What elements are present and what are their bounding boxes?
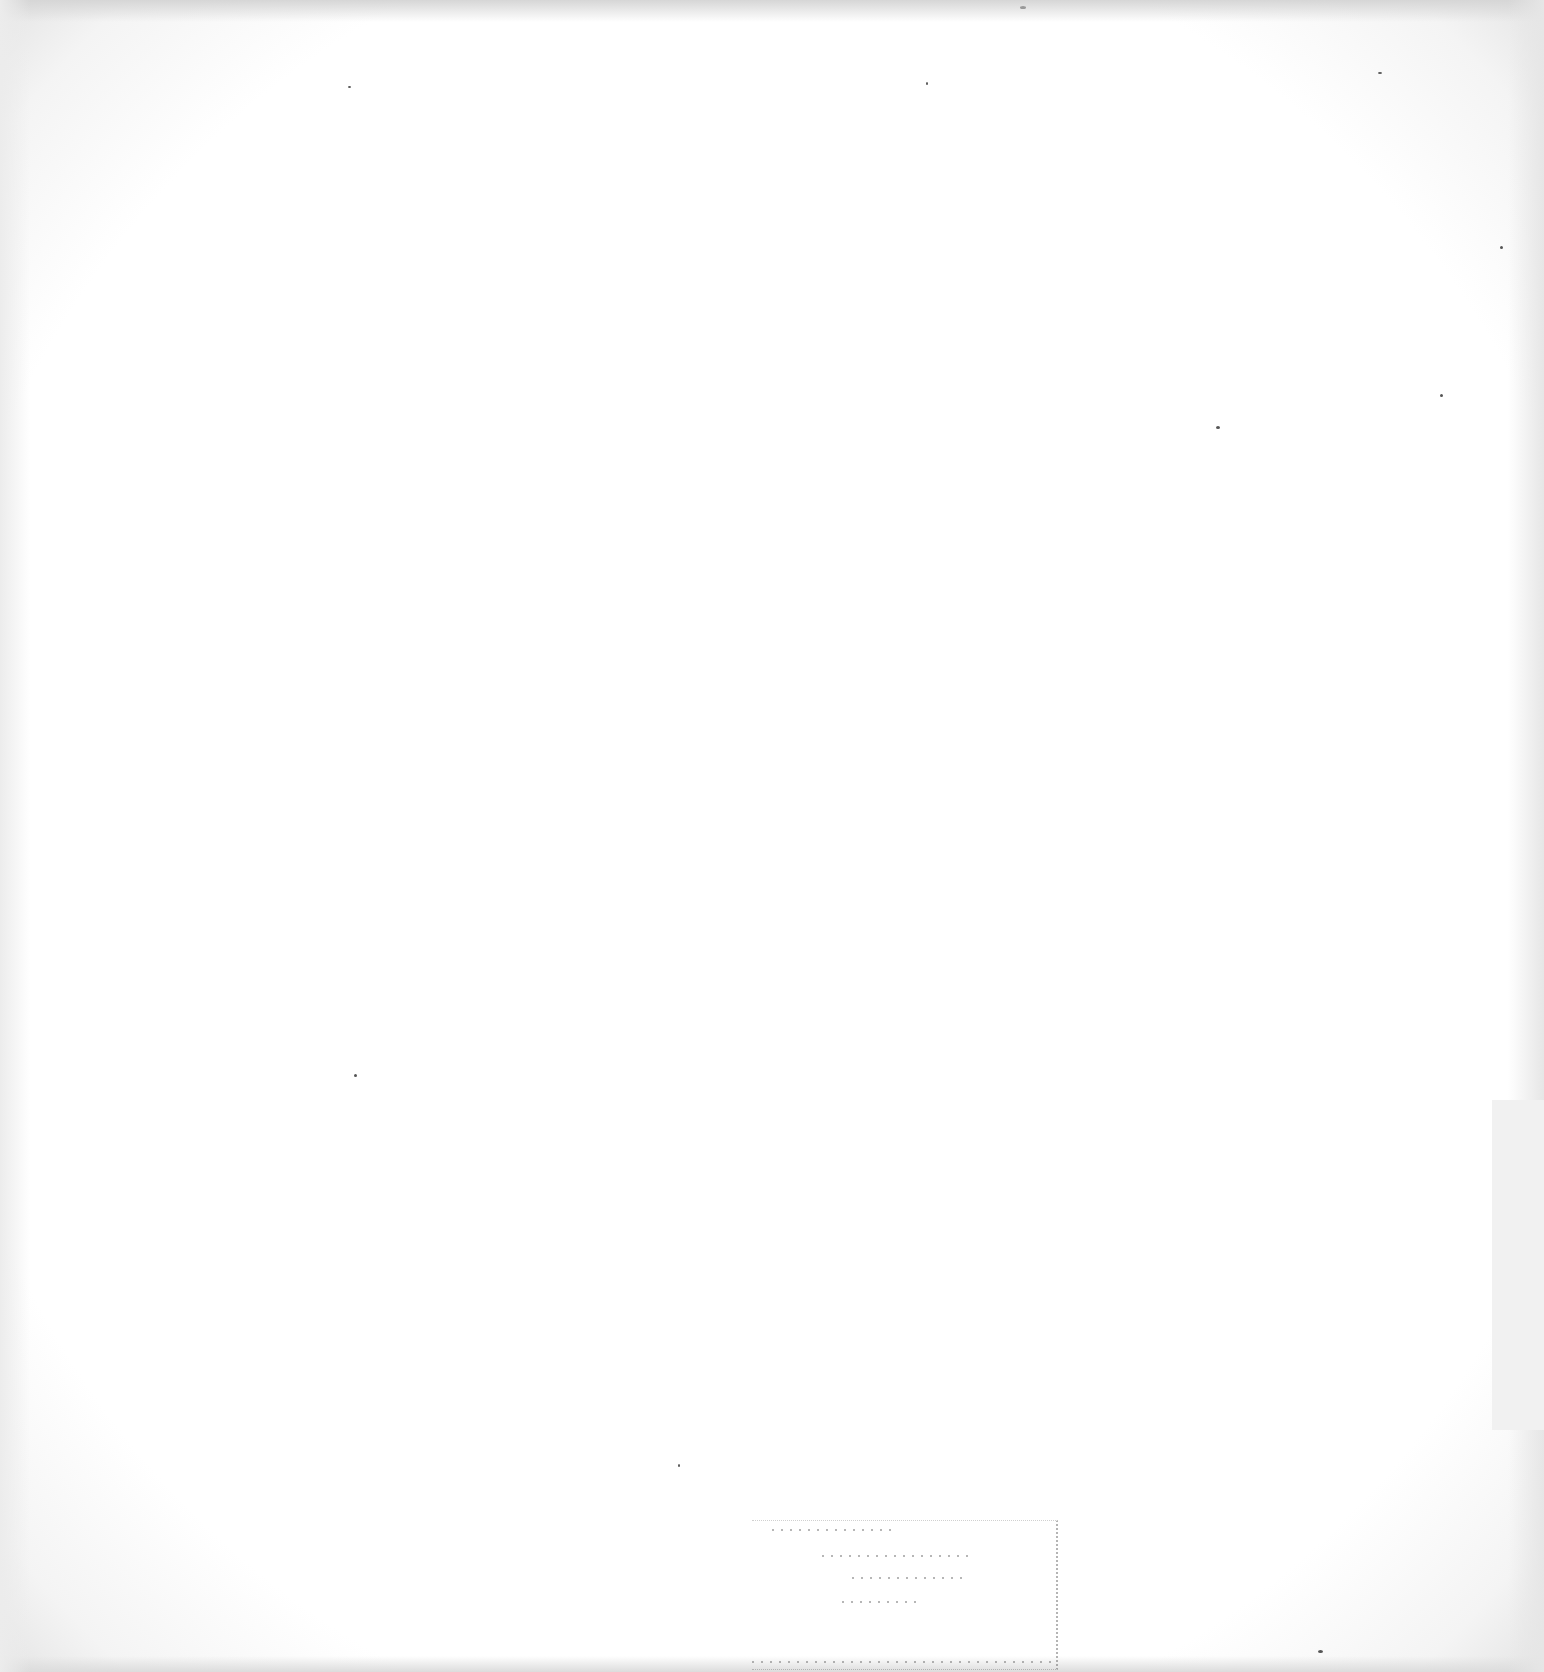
- dust-speck: [348, 86, 351, 88]
- scan-right-margin-strip: [1492, 1100, 1544, 1430]
- stamp-text-smudge: [852, 1577, 962, 1579]
- dust-speck: [1318, 1650, 1323, 1653]
- dust-speck: [678, 1464, 680, 1467]
- faint-stamp-box: [752, 1520, 1058, 1670]
- blank-scanned-page: [0, 0, 1544, 1672]
- stamp-text-smudge: [772, 1529, 892, 1531]
- dust-speck: [1378, 72, 1382, 74]
- stamp-text-smudge: [822, 1555, 972, 1557]
- dust-speck: [1216, 426, 1220, 429]
- dust-speck: [926, 82, 928, 85]
- dust-speck: [1020, 6, 1026, 9]
- stamp-text-smudge: [752, 1661, 1052, 1663]
- stamp-text-smudge: [842, 1601, 922, 1603]
- scan-left-edge-shadow: [0, 0, 30, 1672]
- scan-top-edge-shadow: [0, 0, 1544, 22]
- dust-speck: [354, 1074, 357, 1077]
- dust-speck: [1500, 246, 1503, 249]
- dust-speck: [1440, 394, 1443, 397]
